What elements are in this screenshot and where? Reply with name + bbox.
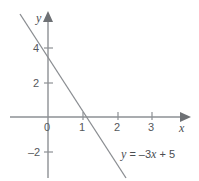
y-axis-arrow-icon bbox=[43, 11, 53, 22]
x-tick-label-2: 2 bbox=[114, 122, 120, 133]
y-axis-label: y bbox=[36, 12, 41, 24]
equation-label: y = –3x + 5 bbox=[121, 148, 175, 160]
y-tick-label-4: 4 bbox=[33, 43, 39, 54]
equation-constant: + 5 bbox=[156, 148, 175, 160]
graph-figure: 0 1 2 3 4 2 –2 y x y = –3x + 5 bbox=[0, 0, 199, 181]
x-axis-label: x bbox=[179, 122, 184, 134]
x-tick-label-3: 3 bbox=[148, 122, 154, 133]
x-tick-label-0: 0 bbox=[44, 122, 50, 133]
x-tick-label-1: 1 bbox=[79, 122, 85, 133]
y-tick-label-2: 2 bbox=[33, 78, 39, 89]
equation-operator: = –3 bbox=[126, 148, 151, 160]
y-tick-label-neg2: –2 bbox=[28, 147, 40, 158]
